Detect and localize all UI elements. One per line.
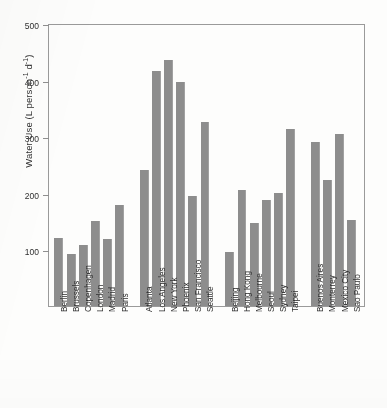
y-tick-label-300: 300: [25, 134, 39, 144]
bar-taipei: [286, 129, 295, 306]
x-tick-label-sydney: Sydney: [279, 285, 288, 312]
x-tick-label-melbourne: Melbourne: [255, 273, 264, 312]
x-tick-label-copenhagen: Copenhagen: [84, 265, 93, 312]
x-tick-label-san-francisco: San Francisco: [194, 260, 203, 312]
y-axis-title-main: Water Use (L person: [23, 79, 34, 168]
x-tick-label-seattle: Seattle: [206, 287, 215, 313]
x-tick-label-sao-paulo: Sao Paulo: [353, 274, 362, 312]
x-tick-label-paris: Paris: [121, 293, 130, 312]
figure: Water Use (L person-1 d-1) 1002003004005…: [0, 0, 387, 408]
x-tick-label-brussels: Brussels: [72, 281, 81, 312]
x-axis-labels: BerlinBrusselsCopenhagenLondonMadridPari…: [48, 310, 365, 406]
x-tick-label-atlanta: Atlanta: [145, 287, 154, 313]
y-tick-label-500: 500: [25, 21, 39, 31]
y-tick-label-400: 400: [25, 78, 39, 88]
y-axis-title: Water Use (L person-1 d-1): [22, 31, 34, 191]
x-tick-label-berlin: Berlin: [60, 291, 69, 312]
y-tick-label-100: 100: [25, 247, 39, 257]
bar-phoenix: [176, 82, 185, 306]
x-tick-label-buenos-aires: Buenos Aires: [316, 264, 325, 312]
x-tick-label-mexico-city: Mexico City: [341, 270, 350, 312]
y-axis-title-end: ): [23, 55, 34, 58]
x-tick-label-new-york: New York: [170, 277, 179, 312]
x-tick-label-phoenix: Phoenix: [182, 282, 191, 312]
x-tick-label-beijing: Beijing: [231, 287, 240, 312]
x-tick-label-los-angeles: Los Angeles: [158, 267, 167, 312]
x-tick-label-madrid: Madrid: [108, 287, 117, 312]
y-axis-title-sup2: -1: [22, 58, 29, 64]
x-tick-label-hong-kong: Hong Kong: [243, 271, 252, 312]
y-axis-title-mid: d: [23, 64, 34, 72]
x-tick-label-seoul: Seoul: [267, 291, 276, 312]
x-tick-label-monterrey: Monterrey: [328, 275, 337, 312]
x-tick-label-taipei: Taipei: [291, 291, 300, 312]
x-tick-label-london: London: [96, 285, 105, 312]
y-tick-label-200: 200: [25, 191, 39, 201]
